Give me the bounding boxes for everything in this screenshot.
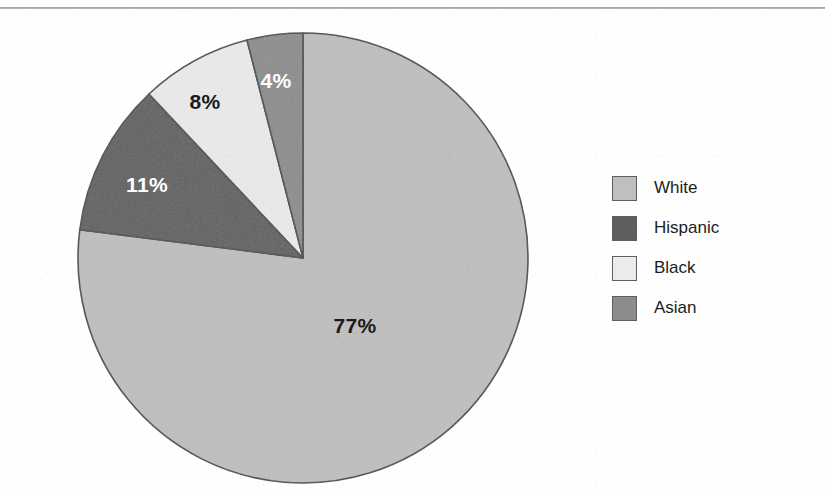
legend-swatch-black [612,256,637,281]
pie-slices-group [78,33,528,483]
chart-legend: WhiteHispanicBlackAsian [612,168,812,328]
legend-item-asian[interactable]: Asian [612,288,812,328]
legend-label-black: Black [654,258,696,278]
pie-label-asian: 4% [261,69,292,92]
pie-label-white: 77% [334,314,377,337]
pie-label-black: 8% [190,90,221,113]
legend-label-hispanic: Hispanic [654,218,719,238]
pie-svg: 77%11%8%4% [0,0,600,489]
pie-chart-figure: 77%11%8%4% WhiteHispanicBlackAsian [0,0,825,489]
legend-item-hispanic[interactable]: Hispanic [612,208,812,248]
legend-label-white: White [654,178,697,198]
legend-item-black[interactable]: Black [612,248,812,288]
chart-plot-area: 77%11%8%4% [0,0,600,489]
legend-swatch-white [612,176,637,201]
legend-item-white[interactable]: White [612,168,812,208]
legend-swatch-asian [612,296,637,321]
legend-swatch-hispanic [612,216,637,241]
pie-label-hispanic: 11% [126,173,168,196]
legend-label-asian: Asian [654,298,697,318]
